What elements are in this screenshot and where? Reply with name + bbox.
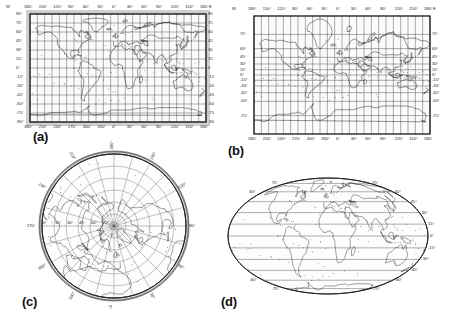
axis-tick-label: 330° xyxy=(321,137,329,141)
axis-tick-label: -15° xyxy=(240,78,248,82)
axis-tick-label: 240° xyxy=(277,137,285,141)
axis-tick-label: 60 xyxy=(208,30,213,34)
axis-tick-label: -15° xyxy=(428,246,436,250)
axis-tick-label: 180° xyxy=(200,125,208,129)
axis-tick-label: 120° xyxy=(171,5,179,9)
axis-tick-label: -30° xyxy=(240,84,248,88)
axis-tick-label: W xyxy=(6,5,10,9)
axis-tick-label: -45° xyxy=(411,268,419,272)
axis-tick-label: 75 xyxy=(208,21,213,25)
axis-tick-label: 60° xyxy=(141,5,147,9)
axis-tick-label: -15° xyxy=(16,75,24,79)
axis-tick-label: -30° xyxy=(16,84,24,88)
axis-tick-label: 120° xyxy=(171,125,179,129)
axis-tick-label: -45° xyxy=(240,91,248,95)
axis-tick-label: 30° xyxy=(351,7,357,11)
axis-tick-label: 60° xyxy=(307,7,313,11)
axis-tick-label: -60° xyxy=(240,99,248,103)
panel-d-label: (d) xyxy=(221,294,237,309)
axis-tick-label: 270° xyxy=(27,224,35,228)
axis-tick-label: 90° xyxy=(16,12,22,16)
axis-tick-label: W xyxy=(232,7,236,11)
axis-tick-label: 210° xyxy=(263,137,271,141)
panel-c-map xyxy=(22,142,212,317)
axis-tick-label: 75° xyxy=(372,181,378,185)
panel-c-label: (c) xyxy=(22,294,37,309)
axis-tick-label: -75° xyxy=(240,114,248,118)
axis-tick-label: 150° xyxy=(39,5,47,9)
panel-a: 180°150°120°90°60°30°0°30°60°90°120°150°… xyxy=(0,0,215,140)
axis-tick-label: 150° xyxy=(185,5,193,9)
axis-tick-label: 30° xyxy=(16,48,22,52)
axis-tick-label: 0° xyxy=(336,7,340,11)
axis-tick-label: 270° xyxy=(68,125,76,129)
axis-tick-label: -75° xyxy=(16,111,24,115)
axis-tick-label: 120° xyxy=(53,5,61,9)
axis-tick-label: 0 xyxy=(208,66,210,70)
axis-tick-label: 60° xyxy=(91,221,97,225)
axis-tick-label: 90° xyxy=(380,7,386,11)
axis-tick-label: 180° xyxy=(110,141,114,149)
axis-tick-label: 30° xyxy=(97,5,103,9)
axis-tick-label: 330° xyxy=(97,125,105,129)
axis-tick-label: 60° xyxy=(83,5,89,9)
axis-tick-label: -75 xyxy=(208,111,214,115)
axis-tick-label: -60° xyxy=(395,278,403,282)
axis-tick-label: 180° xyxy=(24,5,32,9)
axis-tick-label: -45 xyxy=(208,93,214,97)
axis-tick-label: 180° xyxy=(424,7,432,11)
panel-a-map xyxy=(0,0,215,140)
axis-tick-label: 180° xyxy=(248,7,256,11)
axis-tick-label: -90 xyxy=(208,120,214,124)
axis-tick-label: 0° xyxy=(108,305,112,309)
axis-tick-label: -15° xyxy=(432,78,440,82)
axis-tick-label: 90° xyxy=(189,224,195,228)
axis-tick-label: 75° xyxy=(16,21,22,25)
axis-tick-label: 75° xyxy=(103,221,109,225)
axis-tick-label: 90° xyxy=(68,5,74,9)
axis-tick-label: 75° xyxy=(432,32,438,36)
axis-tick-label: 300° xyxy=(307,137,315,141)
axis-tick-label: -30 xyxy=(208,84,214,88)
axis-tick-label: -75° xyxy=(272,287,280,291)
axis-tick-label: 0° xyxy=(430,234,434,238)
axis-tick-label: 45° xyxy=(240,55,246,59)
axis-tick-label: 30° xyxy=(321,7,327,11)
axis-tick-label: 30° xyxy=(240,62,246,66)
axis-tick-label: 0° xyxy=(112,5,116,9)
axis-tick-label: 60° xyxy=(16,30,22,34)
axis-tick-label: 300° xyxy=(83,125,91,129)
axis-tick-label: 60° xyxy=(365,7,371,11)
axis-tick-label: 90 xyxy=(208,12,213,16)
axis-tick-label: -60 xyxy=(208,102,214,106)
axis-tick-label: 90° xyxy=(156,125,162,129)
axis-tick-label: 45° xyxy=(411,200,417,204)
axis-tick-label: 75° xyxy=(240,32,246,36)
axis-tick-label: 180° xyxy=(24,125,32,129)
axis-tick-label: 45° xyxy=(79,221,85,225)
axis-tick-label: 0° xyxy=(112,125,116,129)
axis-tick-label: -90° xyxy=(16,120,24,124)
axis-tick-label: 0° xyxy=(16,66,20,70)
axis-tick-label: -60° xyxy=(432,99,440,103)
axis-tick-label: 150° xyxy=(185,125,193,129)
axis-tick-label: 60° xyxy=(432,47,438,51)
axis-tick-label: 15° xyxy=(55,221,61,225)
axis-tick-label: 60° xyxy=(240,47,246,51)
panel-c: 180°150°120°90°60°30°0°330°300°270°240°2… xyxy=(22,142,212,317)
axis-tick-label: 30° xyxy=(432,62,438,66)
axis-tick-label: 180° xyxy=(248,137,256,141)
axis-tick-label: 30° xyxy=(127,5,133,9)
axis-tick-label: 150° xyxy=(409,7,417,11)
axis-tick-label: 60° xyxy=(395,190,401,194)
axis-tick-label: 60° xyxy=(141,125,147,129)
axis-tick-label: -75° xyxy=(432,114,440,118)
axis-tick-label: 30° xyxy=(421,211,427,215)
axis-tick-label: 120° xyxy=(395,7,403,11)
axis-tick-label: 0° xyxy=(43,221,47,225)
axis-tick-label: E xyxy=(209,5,212,9)
axis-tick-label: 90° xyxy=(156,5,162,9)
axis-tick-label: 30 xyxy=(208,48,213,52)
axis-tick-label: -60° xyxy=(16,102,24,106)
axis-tick-label: -15 xyxy=(208,75,214,79)
